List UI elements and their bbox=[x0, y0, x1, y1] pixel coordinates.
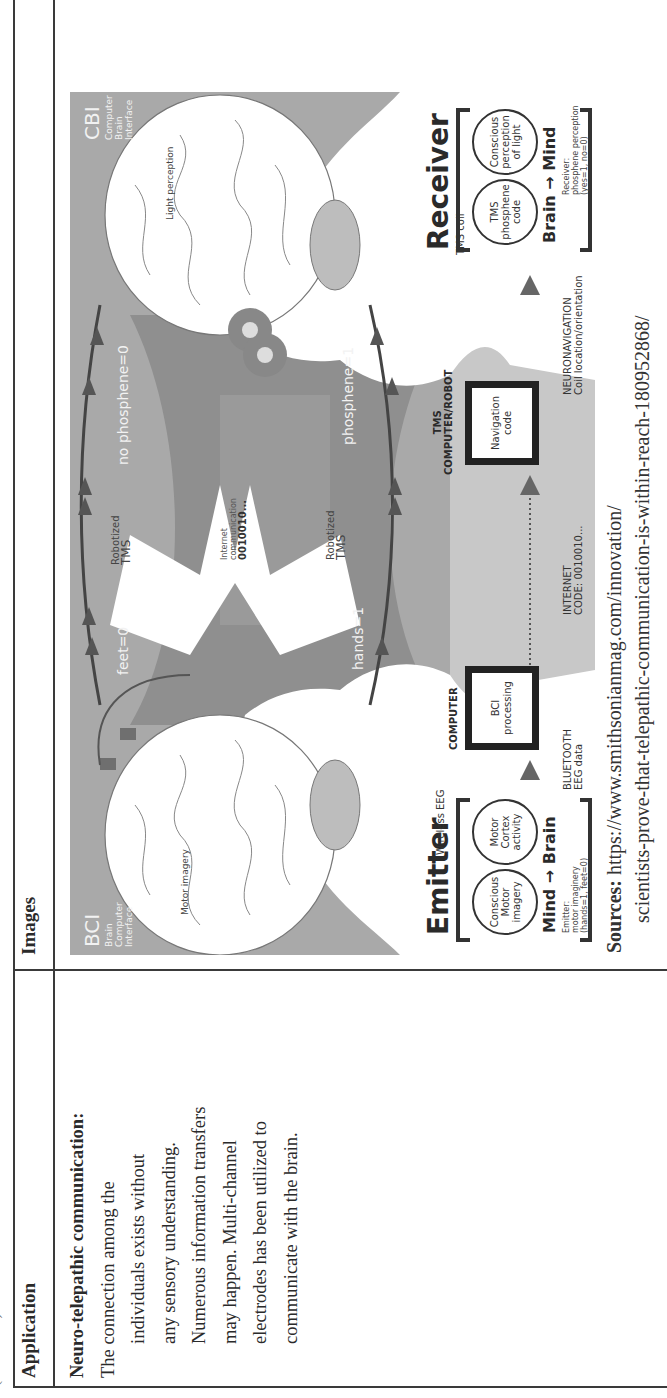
application-line: communicate with the brain. bbox=[276, 978, 307, 1378]
hands-label: hands=1 bbox=[350, 607, 366, 670]
box-line: processing bbox=[502, 681, 514, 735]
continued-label: (Continued) bbox=[0, 1314, 3, 1387]
bci-processing-box: BCIprocessing bbox=[465, 666, 539, 750]
wireless-eeg-label: Wireless EEG bbox=[435, 790, 446, 855]
feet-label: feet=0 bbox=[115, 627, 131, 675]
bluetooth-label: BLUETOOTH EEG data bbox=[562, 729, 584, 790]
link-line: INTERNET bbox=[562, 526, 573, 616]
brain-to-mind-label: Brain → Mind bbox=[540, 126, 559, 243]
internet-code-link-label: INTERNET CODE: 0010010... bbox=[562, 526, 584, 616]
link-line: Coil location/orientation bbox=[573, 275, 584, 395]
application-line: electrodes has been utilized to bbox=[245, 978, 276, 1378]
note-line: Receiver: bbox=[562, 105, 571, 195]
light-perception-label: Light perception bbox=[165, 146, 175, 220]
title-line: TMS bbox=[432, 370, 443, 475]
application-line: Numerous information transfers bbox=[184, 978, 215, 1378]
note-line: (hands=1, feet=0) bbox=[580, 858, 589, 933]
cbi-subtitle: Computer Brain Interface bbox=[104, 95, 134, 140]
sources-url-line2[interactable]: scientists-prove-that-telepathic-communi… bbox=[628, 315, 656, 953]
link-line: CODE: 0010010... bbox=[573, 526, 584, 616]
phosphene-label: phosphene=1 bbox=[340, 347, 356, 445]
robotized-line: TMS bbox=[336, 510, 347, 560]
note-line: Emitter: bbox=[562, 858, 571, 933]
robotized-tms-bottom: Robotized TMS bbox=[325, 510, 347, 560]
motor-cortex-activity-circle: MotorCortexactivity bbox=[472, 799, 538, 865]
internet-code: 0010010... bbox=[238, 498, 247, 560]
note-line: phosphene perception bbox=[571, 105, 580, 195]
application-cell: Neuro-telepathic communication: The conn… bbox=[62, 978, 306, 1378]
link-line: NEURONAVIGATION bbox=[562, 275, 573, 395]
circle-line: Motor bbox=[489, 814, 500, 851]
cbi-title: CBI bbox=[80, 106, 104, 140]
tms-computer-title: TMS COMPUTER/ROBOT bbox=[432, 370, 454, 475]
emitter-note: Emitter: motor imaginery (hands=1, feet=… bbox=[562, 858, 589, 933]
cbi-sub-line: Brain bbox=[114, 95, 124, 140]
application-line: any sensory understanding. bbox=[154, 978, 185, 1378]
tms-coil-label: TMS coil bbox=[455, 214, 466, 255]
header-application: Application bbox=[18, 1283, 40, 1378]
tms-phosphene-code-circle: TMSphosphenecode bbox=[472, 179, 538, 245]
application-line: may happen. Multi-channel bbox=[215, 978, 246, 1378]
conscious-motor-imagery-circle: ConsciousMotorimagery bbox=[472, 869, 538, 935]
title-line: COMPUTER/ROBOT bbox=[443, 370, 454, 475]
application-title: Neuro-telepathic communication: bbox=[62, 978, 93, 1378]
circle-line: of light bbox=[511, 115, 522, 169]
table-left-border bbox=[13, 1386, 667, 1388]
bci-subtitle: Brain Computer Interface bbox=[104, 902, 134, 947]
circle-line: Conscious bbox=[489, 115, 500, 169]
sources-url-line1[interactable]: https://www.smithsonianmag.com/innovatio… bbox=[603, 505, 625, 875]
circle-line: activity bbox=[511, 814, 522, 851]
table-top-border bbox=[13, 0, 15, 1388]
circle-line: imagery bbox=[511, 877, 522, 928]
box-line: Navigation bbox=[490, 396, 502, 450]
mind-to-brain-label: Mind → Brain bbox=[540, 816, 559, 933]
circle-line: Motor bbox=[500, 877, 511, 928]
bci-sub-line: Interface bbox=[124, 902, 134, 947]
application-line: individuals exists without bbox=[123, 978, 154, 1378]
header-divider bbox=[53, 0, 55, 1388]
receiver-title: Receiver bbox=[422, 113, 455, 250]
note-line: (yes=1, no=0) bbox=[580, 105, 589, 195]
conscious-perception-circle: Consciousperceptionof light bbox=[472, 109, 538, 175]
circle-line: perception bbox=[500, 115, 511, 169]
bci-title: BCI bbox=[80, 914, 104, 947]
computer-title: COMPUTER bbox=[448, 687, 459, 750]
note-line: motor imaginery bbox=[571, 858, 580, 933]
link-line: EEG data bbox=[573, 729, 584, 790]
circle-line: TMS bbox=[489, 184, 500, 239]
receiver-note: Receiver: phosphene perception (yes=1, n… bbox=[562, 105, 589, 195]
box-line: code bbox=[502, 396, 514, 450]
no-phosphene-label: no phosphene=0 bbox=[115, 345, 131, 465]
box-line: BCI bbox=[490, 681, 502, 735]
circle-line: Conscious bbox=[489, 877, 500, 928]
navigation-code-box: Navigationcode bbox=[465, 381, 539, 465]
sources-label: Sources: bbox=[603, 880, 625, 953]
sources: Sources: https://www.smithsonianmag.com/… bbox=[600, 315, 656, 953]
internet-communication-label: Internet communication 0010010... bbox=[220, 498, 247, 560]
circle-line: Cortex bbox=[500, 814, 511, 851]
telepathy-diagram-figure: BCI Brain Computer Interface Motor image… bbox=[70, 92, 595, 955]
motor-imagery-label: Motor imagery bbox=[180, 849, 190, 915]
column-divider bbox=[13, 969, 667, 971]
circle-line: phosphene bbox=[500, 184, 511, 239]
header-images: Images bbox=[18, 897, 40, 955]
circle-line: code bbox=[511, 184, 522, 239]
application-line: The connection among the bbox=[93, 978, 124, 1378]
neuronavigation-label: NEURONAVIGATION Coil location/orientatio… bbox=[562, 275, 584, 395]
internet-comm-line: Internet bbox=[220, 498, 229, 560]
link-line: BLUETOOTH bbox=[562, 729, 573, 790]
bci-sub-line: Computer bbox=[114, 902, 124, 947]
bci-sub-line: Brain bbox=[104, 902, 114, 947]
cbi-sub-line: Interface bbox=[124, 95, 134, 140]
rotated-page: (Continued) Application Images Neuro-tel… bbox=[0, 0, 667, 1398]
robotized-tms-top: Robotized TMS bbox=[110, 515, 132, 565]
cbi-sub-line: Computer bbox=[104, 95, 114, 140]
robotized-line: TMS bbox=[121, 515, 132, 565]
